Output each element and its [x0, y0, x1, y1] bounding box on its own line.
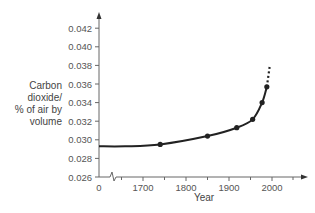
y-ticks: 0.0260.0280.0300.0320.0340.0360.0380.040…: [68, 23, 99, 183]
projection-line: [267, 65, 270, 86]
series-co2: [99, 65, 270, 147]
y-tick-label: 0.034: [68, 97, 92, 108]
x-axis-arrow-icon: [301, 175, 308, 180]
x-axis: [99, 172, 308, 181]
co2-line: [99, 87, 267, 147]
y-axis: [97, 12, 102, 177]
y-tick-label: 0.036: [68, 79, 92, 90]
y-axis-title-line: Carbon: [2, 80, 62, 92]
y-tick-label: 0.028: [68, 153, 92, 164]
y-axis-title-line: volume: [2, 116, 62, 128]
x-tick-label: 1700: [132, 182, 153, 193]
y-axis-title-line: dioxide/: [2, 92, 62, 104]
y-axis-title: Carbon dioxide/ % of air by volume: [2, 80, 62, 128]
x-tick-label: 2000: [261, 182, 282, 193]
data-point: [250, 117, 255, 122]
y-tick-label: 0.038: [68, 60, 92, 71]
x-tick-label: 1900: [218, 182, 239, 193]
data-point: [205, 133, 210, 138]
y-axis-title-line: % of air by: [2, 104, 62, 116]
y-tick-label: 0.032: [68, 116, 92, 127]
y-axis-arrow-icon: [97, 12, 102, 19]
y-tick-label: 0.026: [68, 172, 92, 183]
x-ticks: 01700180019002000: [96, 177, 293, 193]
y-tick-label: 0.030: [68, 134, 92, 145]
data-point: [264, 84, 269, 89]
data-point: [260, 100, 265, 105]
data-point: [158, 142, 163, 147]
x-tick-label: 0: [96, 182, 101, 193]
axis-break-icon: [110, 172, 116, 181]
data-point: [234, 125, 239, 130]
y-tick-label: 0.042: [68, 23, 92, 34]
x-axis-title: Year: [194, 192, 215, 203]
y-tick-label: 0.040: [68, 41, 92, 52]
